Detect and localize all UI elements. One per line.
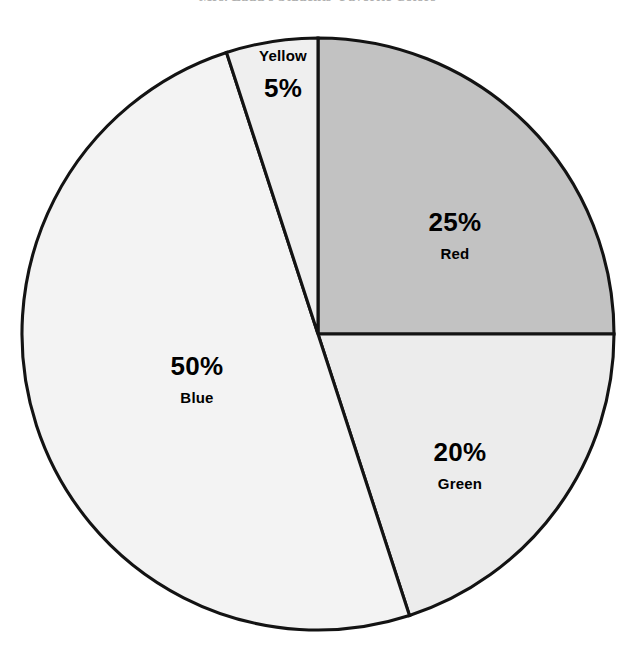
- pie-chart-canvas: [0, 0, 635, 671]
- pie-chart-figure: Mrs. Ladd's Students' Favorite Colors Ye…: [0, 0, 635, 671]
- pie-slice-red[interactable]: [318, 38, 614, 334]
